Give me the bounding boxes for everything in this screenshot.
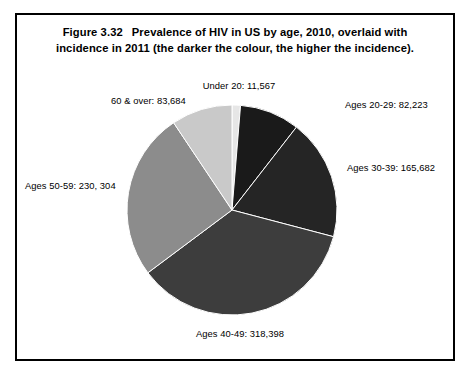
caption-text-1: Prevalence of HIV in US by age, 2010, ov…: [132, 26, 408, 38]
figure-root: Figure 3.32Prevalence of HIV in US by ag…: [0, 0, 470, 377]
pie-chart-svg: [17, 70, 453, 358]
pie-label-under-20: Under 20: 11,567: [203, 80, 276, 91]
pie-label-ages-30-39: Ages 30-39: 165,682: [347, 162, 435, 173]
pie-chart: Under 20: 11,567 Ages 20-29: 82,223 Ages…: [17, 70, 453, 358]
caption-line-1: Figure 3.32Prevalence of HIV in US by ag…: [26, 24, 444, 40]
figure-number: Figure 3.32: [63, 26, 123, 38]
pie-slice-group: [127, 105, 337, 315]
pie-label-ages-40-49: Ages 40-49: 318,398: [196, 328, 284, 339]
pie-label-60-and-over: 60 & over: 83,684: [111, 95, 186, 106]
figure-caption: Figure 3.32Prevalence of HIV in US by ag…: [26, 24, 444, 56]
pie-label-ages-50-59: Ages 50-59: 230, 304: [25, 180, 116, 191]
pie-label-ages-20-29: Ages 20-29: 82,223: [345, 99, 428, 110]
caption-line-2: incidence in 2011 (the darker the colour…: [26, 40, 444, 56]
